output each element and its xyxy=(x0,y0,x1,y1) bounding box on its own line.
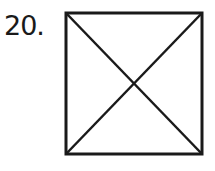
square-with-diagonals-diagram xyxy=(0,0,215,171)
